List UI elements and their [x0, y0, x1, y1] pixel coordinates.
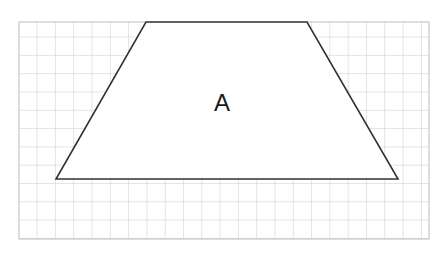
shape-label-a: A [214, 89, 230, 116]
geometry-figure: A [0, 0, 435, 264]
figure-canvas: A [0, 0, 435, 264]
